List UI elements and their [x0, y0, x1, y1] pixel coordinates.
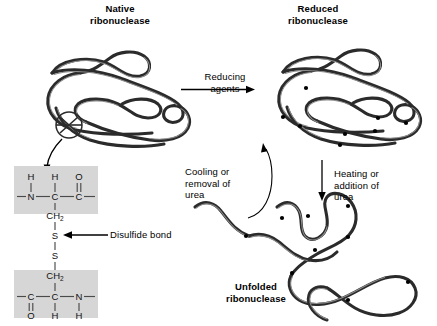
- diagram-canvas: H H O N C C CH2 S S CH2 C C N: [0, 0, 437, 326]
- label-reducing-agents: Reducing agents: [183, 71, 267, 94]
- label-native-line1: Native: [105, 3, 134, 14]
- atom-h-top-mid: H: [52, 171, 59, 182]
- atom-h-top-left: H: [28, 171, 35, 182]
- atom-o-bottom: O: [27, 310, 34, 321]
- atom-c-alpha-bottom: C: [52, 291, 59, 302]
- atom-n-bottom: N: [76, 291, 83, 302]
- label-cooling-line2: removal of: [185, 178, 230, 189]
- disulfide-chemical-inset: H H O N C C CH2 S S CH2 C C N: [0, 0, 437, 326]
- label-disulfide-bond: Disulfide bond: [110, 229, 220, 241]
- label-reducing-line2: agents: [210, 83, 239, 94]
- atom-c-alpha-top: C: [52, 191, 59, 202]
- label-heating-line1: Heating or: [334, 168, 379, 179]
- label-heating-line2: addition of: [334, 180, 379, 191]
- label-unfolded-line2: ribonuclease: [226, 293, 286, 304]
- atom-c-carbonyl-bottom: C: [28, 291, 35, 302]
- atom-s-upper: S: [52, 230, 58, 241]
- label-reduced-ribonuclease: Reduced ribonuclease: [258, 3, 378, 26]
- label-reducing-line1: Reducing: [205, 71, 246, 82]
- label-cooling-line3: urea: [185, 189, 204, 200]
- label-native-line2: ribonuclease: [90, 15, 150, 26]
- label-reduced-line1: Reduced: [298, 3, 339, 14]
- label-reduced-line2: ribonuclease: [288, 15, 348, 26]
- label-native-ribonuclease: Native ribonuclease: [60, 3, 180, 26]
- label-unfolded-ribonuclease: Unfolded ribonuclease: [196, 281, 316, 304]
- label-cooling-removal-urea: Cooling or removal of urea: [185, 166, 261, 201]
- atom-c-carbonyl-top: C: [76, 191, 83, 202]
- atom-s-lower: S: [52, 250, 58, 261]
- label-heating-addition-urea: Heating or addition of urea: [334, 168, 412, 203]
- atom-n-top: N: [28, 191, 35, 202]
- atom-h-bottom-mid: H: [52, 310, 59, 321]
- atom-h-bottom-right: H: [76, 310, 83, 321]
- label-cooling-line1: Cooling or: [185, 166, 229, 177]
- label-unfolded-line1: Unfolded: [235, 281, 277, 292]
- label-heating-line3: urea: [334, 191, 353, 202]
- atom-o-top: O: [75, 171, 82, 182]
